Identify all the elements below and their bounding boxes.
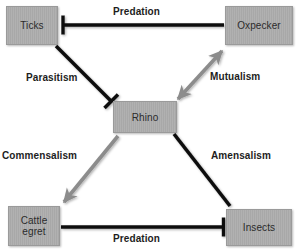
node-cattle-egret-label: Cattle egret	[21, 215, 48, 237]
node-oxpecker[interactable]: Oxpecker	[225, 6, 293, 45]
node-cattle-egret[interactable]: Cattle egret	[8, 206, 60, 246]
species-interaction-diagram: Ticks Oxpecker Rhino Cattle egret Insect…	[0, 0, 300, 252]
edge-label-amensalism: Amensalism	[211, 150, 271, 161]
edge-label-predation-bottom: Predation	[113, 233, 160, 244]
edge-commensalism	[64, 136, 118, 202]
edge-label-predation-top: Predation	[113, 6, 160, 17]
edge-amensalism	[174, 134, 230, 206]
node-insects[interactable]: Insects	[226, 209, 292, 246]
edge-predation-top	[63, 16, 224, 35]
edge-label-commensalism: Commensalism	[2, 150, 77, 161]
node-ticks-label: Ticks	[20, 20, 43, 31]
node-rhino-label: Rhino	[132, 112, 159, 123]
node-insects-label: Insects	[243, 222, 275, 233]
edge-label-parasitism: Parasitism	[26, 72, 78, 83]
edge-label-mutualism: Mutualism	[210, 71, 260, 82]
node-oxpecker-label: Oxpecker	[237, 20, 281, 31]
node-ticks[interactable]: Ticks	[6, 6, 58, 45]
node-rhino[interactable]: Rhino	[113, 101, 177, 133]
